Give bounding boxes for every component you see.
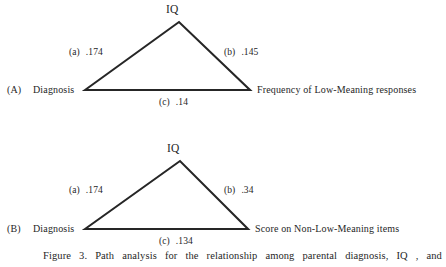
path-key-a-base: (c) [159, 98, 170, 108]
path-value-a-left: .174 [86, 48, 103, 58]
path-coefficient-a-left: (a).174 [69, 48, 103, 58]
panel-a: IQ (A) Diagnosis Frequency of Low-Meanin… [0, 0, 446, 130]
node-label-outcome-a: Frequency of Low-Meaning responses [257, 85, 416, 95]
path-value-b-left: .174 [86, 186, 103, 196]
caption-word: among [265, 249, 294, 263]
caption-word: parental [302, 249, 337, 263]
path-coefficient-a-base: (c).14 [159, 98, 188, 108]
caption-word: 3. [79, 249, 87, 263]
caption-word: Path [95, 249, 114, 263]
caption-word: relationship [207, 249, 258, 263]
node-label-outcome-b: Score on Non-Low-Meaning items [255, 224, 399, 234]
path-value-a-base: .14 [176, 98, 188, 108]
caption-word: Figure [43, 249, 71, 263]
node-label-iq-a: IQ [166, 4, 179, 16]
panel-label-b: (B) [7, 224, 21, 234]
triangle-diagram-a [0, 0, 446, 130]
caption-word: diagnosis, [345, 249, 388, 263]
panel-label-a: (A) [7, 85, 21, 95]
path-key-a-right: (b) [224, 48, 235, 58]
figure-caption: Figure3.Pathanalysisfortherelationshipam… [43, 249, 442, 263]
path-key-b-right: (b) [224, 186, 235, 196]
path-analysis-figure: IQ (A) Diagnosis Frequency of Low-Meanin… [0, 0, 446, 267]
node-label-diagnosis-b: Diagnosis [33, 224, 74, 234]
path-coefficient-a-right: (b).145 [224, 48, 258, 58]
path-value-b-base: .134 [176, 237, 193, 247]
figure-caption-text: Figure3.Pathanalysisfortherelationshipam… [43, 249, 442, 263]
path-coefficient-b-right: (b).34 [224, 186, 254, 196]
caption-word: for [165, 249, 178, 263]
path-key-a-left: (a) [69, 48, 80, 58]
path-value-a-right: .145 [241, 48, 258, 58]
caption-word: IQ [396, 249, 407, 263]
node-label-diagnosis-a: Diagnosis [33, 85, 74, 95]
path-value-b-right: .34 [241, 186, 253, 196]
path-coefficient-b-left: (a).174 [69, 186, 103, 196]
panel-b: IQ (B) Diagnosis Score on Non-Low-Meanin… [0, 130, 446, 240]
caption-word: , [416, 249, 419, 263]
path-key-b-left: (a) [69, 186, 80, 196]
path-coefficient-b-base: (c).134 [159, 237, 193, 247]
caption-word: analysis [122, 249, 157, 263]
path-key-b-base: (c) [159, 237, 170, 247]
caption-word: and [426, 249, 441, 263]
node-label-iq-b: IQ [167, 143, 180, 155]
caption-word: the [185, 249, 198, 263]
